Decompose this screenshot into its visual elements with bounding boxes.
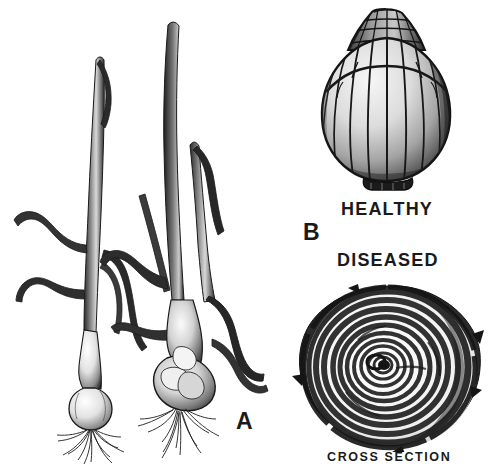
label-healthy: HEALTHY <box>341 199 433 220</box>
label-panel-b: B <box>303 219 320 246</box>
bulb-cross-section-illustration <box>288 282 488 452</box>
label-panel-a: A <box>236 408 253 435</box>
root-tuft-right <box>138 409 219 458</box>
plant-right <box>100 22 268 458</box>
label-cross-section: CROSS SECTION <box>327 450 451 464</box>
panel-a-illustration <box>0 0 300 468</box>
root-tuft-left <box>57 429 124 464</box>
label-diseased: DISEASED <box>337 250 439 271</box>
whole-bulb-illustration <box>292 0 482 200</box>
